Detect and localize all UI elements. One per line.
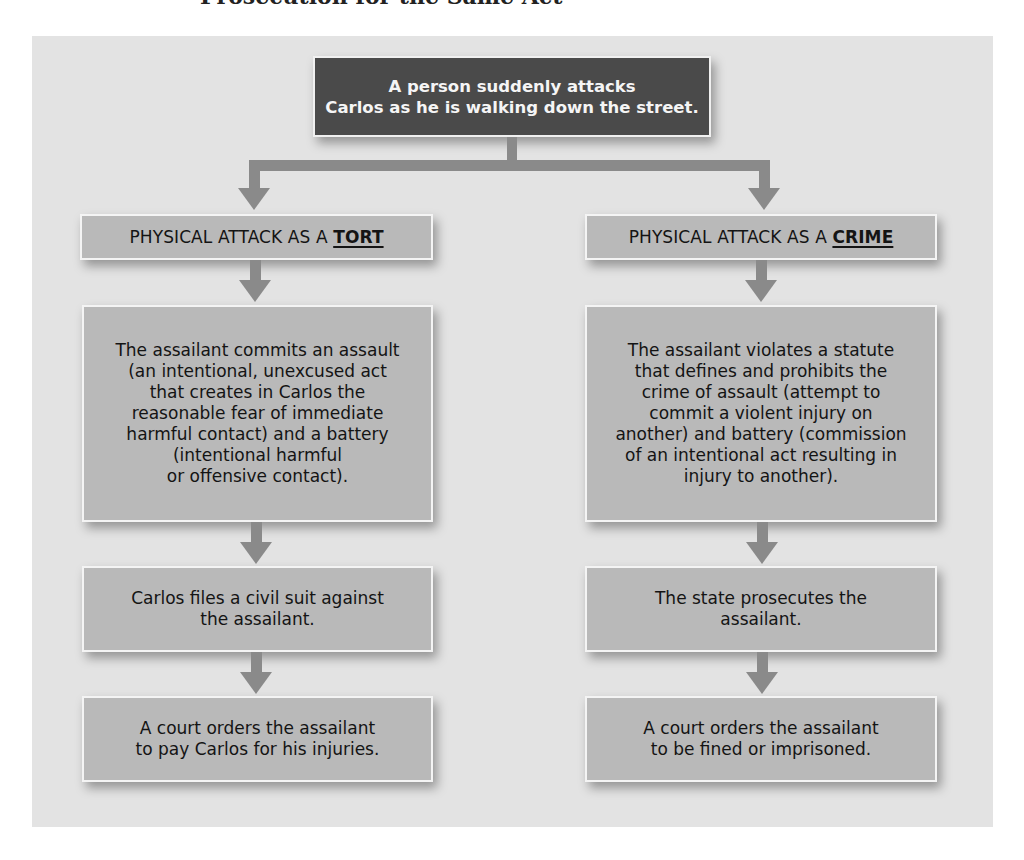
crime-connector-vertical	[759, 160, 770, 190]
tort-header-prefix: PHYSICAL ATTACK AS A	[129, 227, 333, 248]
tort-step-3-box: A court orders the assailant to pay Carl…	[82, 696, 433, 782]
tort-arrow-2-shaft	[251, 522, 262, 544]
crime-arrow-1-shaft	[756, 260, 767, 282]
tort-step-2-text: Carlos files a civil suit against the as…	[131, 588, 384, 630]
crime-header-prefix: PHYSICAL ATTACK AS A	[629, 227, 833, 248]
tort-arrow-1-icon	[239, 280, 271, 302]
crime-arrow-3-shaft	[757, 652, 768, 674]
tort-header-box: PHYSICAL ATTACK AS A TORT	[80, 214, 433, 260]
tort-arrow-2-icon	[240, 542, 272, 564]
tort-connector-vertical	[249, 160, 260, 190]
tort-step-2-box: Carlos files a civil suit against the as…	[82, 566, 433, 652]
root-event-box: A person suddenly attacks Carlos as he i…	[313, 56, 711, 137]
crime-step-1-box: The assailant violates a statute that de…	[585, 305, 937, 522]
tort-arrow-1-shaft	[250, 260, 261, 282]
branch-connector-horizontal	[249, 160, 770, 171]
crime-arrow-1-icon	[745, 280, 777, 302]
tort-arrow-3-shaft	[251, 652, 262, 674]
crime-step-1-text: The assailant violates a statute that de…	[615, 340, 906, 487]
root-event-text: A person suddenly attacks Carlos as he i…	[325, 76, 698, 118]
tort-step-1-box: The assailant commits an assault (an int…	[82, 305, 433, 522]
crime-header-box: PHYSICAL ATTACK AS A CRIME	[585, 214, 937, 260]
tort-header-emphasis: TORT	[333, 227, 383, 248]
crime-step-3-box: A court orders the assailant to be fined…	[585, 696, 937, 782]
crime-header-emphasis: CRIME	[832, 227, 893, 248]
crime-arrow-2-icon	[746, 542, 778, 564]
crime-step-2-text: The state prosecutes the assailant.	[655, 588, 867, 630]
cropped-heading: Prosecution for the Same Act	[200, 0, 660, 6]
tort-arrow-down-icon	[238, 188, 270, 210]
crime-arrow-3-icon	[746, 672, 778, 694]
tort-arrow-3-icon	[240, 672, 272, 694]
crime-arrow-down-icon	[748, 188, 780, 210]
tort-step-3-text: A court orders the assailant to pay Carl…	[136, 718, 380, 760]
crime-arrow-2-shaft	[757, 522, 768, 544]
tort-step-1-text: The assailant commits an assault (an int…	[115, 340, 399, 487]
crime-step-3-text: A court orders the assailant to be fined…	[643, 718, 878, 760]
crime-step-2-box: The state prosecutes the assailant.	[585, 566, 937, 652]
